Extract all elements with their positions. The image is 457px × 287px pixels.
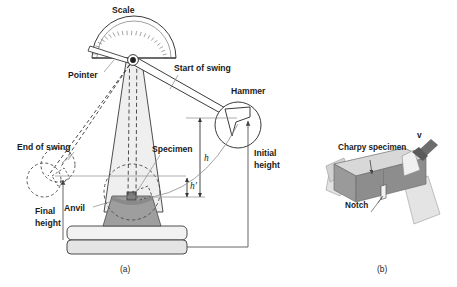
h-prime-label: h' <box>190 181 198 191</box>
end-of-swing-label: End of swing <box>17 142 70 152</box>
hammer-label: Hammer <box>231 86 266 96</box>
panel-a-caption: (a) <box>120 264 130 274</box>
machine-column <box>104 62 163 212</box>
pivot-point <box>128 55 139 66</box>
notch-label: Notch <box>345 201 368 210</box>
hammer-body <box>215 102 261 148</box>
h-label: h <box>204 153 209 163</box>
notch-leader-2 <box>371 196 383 212</box>
final-height-label-line2: height <box>35 218 61 228</box>
panel-a-group: h h' Initial height Final height <box>17 5 280 274</box>
anvil-label: Anvil <box>64 203 85 213</box>
pointer-leader <box>104 60 114 72</box>
velocity-label: v <box>417 130 422 140</box>
start-of-swing-label: Start of swing <box>174 63 231 73</box>
specimen-label: Specimen <box>152 144 193 154</box>
scale-label: Scale <box>112 5 135 15</box>
initial-height-label-line2: height <box>254 160 280 170</box>
panel-b-caption: (b) <box>377 264 387 274</box>
end-of-swing-leader-2 <box>68 152 74 160</box>
hammer-end-of-swing-outline-2 <box>27 163 61 197</box>
pointer-label: Pointer <box>68 70 98 80</box>
charpy-specimen-label: Charpy specimen <box>338 143 406 152</box>
machine-base <box>67 226 187 254</box>
panel-b-group: Charpy specimen Notch v (b) <box>326 130 440 274</box>
charpy-impact-test-figure: h h' Initial height Final height <box>0 0 457 287</box>
figure-canvas: h h' Initial height Final height <box>0 0 457 287</box>
initial-height-label-line1: Initial <box>254 148 276 158</box>
final-height-label-line1: Final <box>35 206 55 216</box>
